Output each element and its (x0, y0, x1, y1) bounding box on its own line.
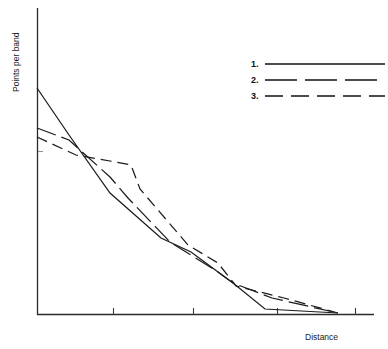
legend-key-3: 3. (251, 91, 259, 101)
chart-page: Points per band Distance 1. 2. 3. (0, 0, 388, 349)
line-chart: Points per band Distance 1. 2. 3. (0, 0, 388, 349)
series-line-2 (37, 128, 338, 313)
y-axis-label: Points per band (11, 32, 21, 92)
series-group (37, 88, 338, 313)
chart-legend: 1. 2. 3. (251, 59, 385, 101)
axis-ticks (37, 152, 356, 316)
y-axis-label-group: Points per band (11, 32, 21, 92)
legend-key-1: 1. (251, 59, 259, 69)
legend-key-2: 2. (251, 75, 259, 85)
series-line-1 (37, 88, 338, 313)
series-line-3 (37, 137, 338, 313)
x-axis-label: Distance (305, 332, 338, 342)
